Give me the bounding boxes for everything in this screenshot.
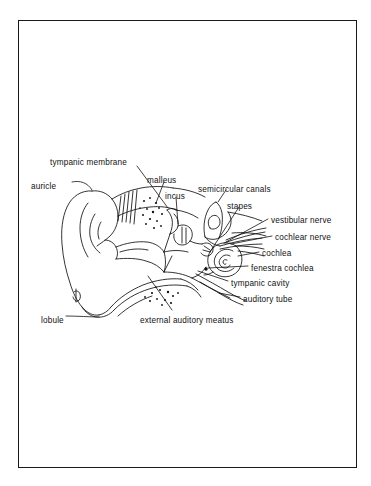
label-incus: incus xyxy=(165,193,185,201)
label-lobule: lobule xyxy=(41,317,64,325)
label-external-auditory-meatus: external auditory meatus xyxy=(140,317,234,325)
label-stapes: stapes xyxy=(227,203,252,211)
tympanic-cavity xyxy=(164,251,206,279)
mandibular-bone xyxy=(111,279,201,316)
temporal-bone-upper xyxy=(112,187,205,225)
label-tympanic-membrane: tympanic membrane xyxy=(50,159,127,167)
label-auricle: auricle xyxy=(31,183,56,191)
label-auditory-tube: auditory tube xyxy=(243,296,292,304)
label-vestibular-nerve: vestibular nerve xyxy=(271,217,331,225)
tympanic-membrane xyxy=(164,234,172,272)
label-tympanic-cavity: tympanic cavity xyxy=(231,280,289,288)
label-fenestra-cochlea: fenestra cochlea xyxy=(251,265,314,273)
label-cochlear-nerve: cochlear nerve xyxy=(275,234,331,242)
bone-stipple-upper xyxy=(139,197,163,229)
label-cochlea: cochlea xyxy=(262,250,291,258)
label-malleus: malleus xyxy=(147,177,176,185)
label-semicircular-canals: semicircular canals xyxy=(198,186,271,194)
auricle-outline xyxy=(62,191,118,317)
external-auditory-meatus xyxy=(116,242,164,272)
ear-anatomy-diagram xyxy=(0,0,371,486)
cochlea xyxy=(204,243,242,277)
fenestra-cochlea xyxy=(204,267,207,270)
